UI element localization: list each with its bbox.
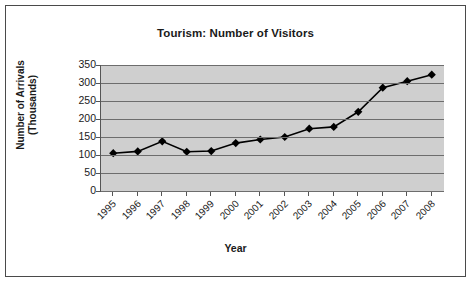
- data-point-marker: [428, 71, 436, 79]
- y-axis-tick-label: 150: [62, 131, 96, 141]
- plot-area: [100, 65, 444, 192]
- data-point-marker: [305, 125, 313, 133]
- x-axis-tick-mark: [210, 192, 211, 196]
- x-axis-tick-mark: [161, 192, 162, 196]
- x-axis-tick-mark: [259, 192, 260, 196]
- x-axis-tick-mark: [382, 192, 383, 196]
- y-axis-tick-mark: [96, 101, 100, 102]
- data-point-marker: [403, 77, 411, 85]
- gridline: [101, 191, 444, 192]
- y-axis-tick-mark: [96, 119, 100, 120]
- gridline: [101, 137, 444, 138]
- y-axis-title-line1: Number of Arrivals: [15, 60, 26, 150]
- y-axis-tick-label: 350: [62, 59, 96, 69]
- y-axis-title: Number of Arrivals (Thousands): [15, 40, 39, 170]
- y-axis-tick-label: 50: [62, 167, 96, 177]
- data-point-marker: [109, 149, 117, 157]
- x-axis-tick-mark: [235, 192, 236, 196]
- data-point-marker: [207, 147, 215, 155]
- x-axis-tick-mark: [112, 192, 113, 196]
- x-axis-tick-mark: [137, 192, 138, 196]
- y-axis-tick-label: 100: [62, 149, 96, 159]
- y-axis-tick-mark: [96, 65, 100, 66]
- y-axis-tick-label: 250: [62, 95, 96, 105]
- x-axis-title: Year: [0, 242, 471, 254]
- y-axis-title-line2: (Thousands): [27, 75, 38, 135]
- x-axis-tick-mark: [431, 192, 432, 196]
- x-axis-tick-mark: [308, 192, 309, 196]
- data-point-marker: [232, 139, 240, 147]
- y-axis-tick-mark: [96, 83, 100, 84]
- data-point-marker: [330, 123, 338, 131]
- y-axis-tick-label: 200: [62, 113, 96, 123]
- x-axis-tick-mark: [357, 192, 358, 196]
- gridline: [101, 155, 444, 156]
- x-axis-tick-mark: [406, 192, 407, 196]
- gridline: [101, 173, 444, 174]
- y-axis-tick-mark: [96, 191, 100, 192]
- y-axis-tick-mark: [96, 173, 100, 174]
- chart-figure: Tourism: Number of Visitors Number of Ar…: [0, 0, 471, 283]
- data-point-marker: [158, 137, 166, 145]
- gridline: [101, 83, 444, 84]
- y-axis-tick-mark: [96, 155, 100, 156]
- x-axis-tick-mark: [284, 192, 285, 196]
- x-axis-tick-mark: [186, 192, 187, 196]
- y-axis-tick-mark: [96, 137, 100, 138]
- gridline: [101, 101, 444, 102]
- x-axis-tick-mark: [333, 192, 334, 196]
- y-axis-tick-labels: 050100150200250300350: [58, 0, 96, 283]
- y-axis-tick-label: 0: [62, 185, 96, 195]
- y-axis-tick-label: 300: [62, 77, 96, 87]
- gridline: [101, 119, 444, 120]
